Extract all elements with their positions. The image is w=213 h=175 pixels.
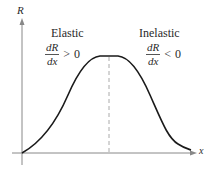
relation-symbol: > xyxy=(63,47,70,62)
elastic-label: Elastic xyxy=(51,27,84,39)
revenue-diagram xyxy=(0,0,213,175)
inelastic-derivative: dR dx < 0 xyxy=(146,42,181,67)
elastic-derivative: dR dx > 0 xyxy=(45,42,80,67)
relation-symbol: < xyxy=(164,47,171,62)
relation-value: 0 xyxy=(74,47,80,62)
x-axis-label: x xyxy=(199,146,203,156)
x-axis-arrow-icon xyxy=(190,151,197,156)
derivative-denominator: dx xyxy=(47,55,57,67)
revenue-curve xyxy=(22,56,191,153)
derivative-denominator: dx xyxy=(148,55,158,67)
y-axis-arrow-icon xyxy=(20,18,25,25)
inelastic-label: Inelastic xyxy=(139,27,180,39)
derivative-numerator: dR xyxy=(45,42,59,54)
y-axis-label: R xyxy=(17,5,24,16)
relation-value: 0 xyxy=(175,47,181,62)
derivative-numerator: dR xyxy=(146,42,160,54)
